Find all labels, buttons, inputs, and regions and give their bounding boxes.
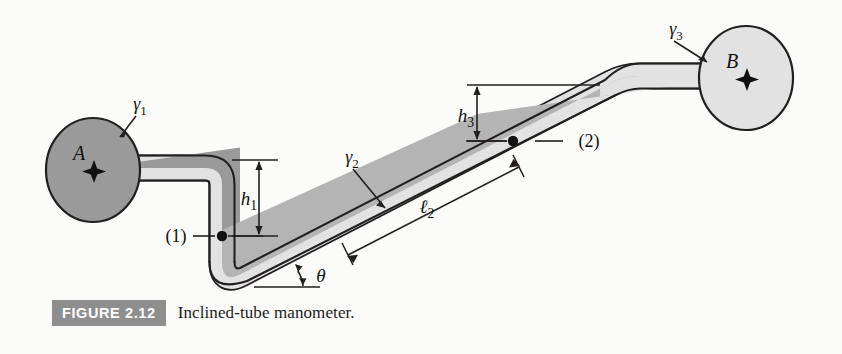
theta-label: θ (316, 265, 325, 286)
reservoir-a: A (46, 118, 140, 222)
figure-caption: FIGURE 2.12 Inclined-tube manometer. (52, 300, 355, 326)
reservoir-a-label: A (71, 142, 86, 164)
gamma1-annotation: γ1 (120, 94, 147, 138)
point-2-marker-dot (508, 136, 518, 146)
gamma3-annotation: γ3 (669, 19, 707, 62)
h1-label: h1 (241, 188, 258, 213)
figure-page: A B γ1 γ3 γ2 (0, 0, 842, 354)
point-1-marker-dot (217, 231, 227, 241)
h1-arrowhead-up (255, 161, 262, 170)
h3-arrowhead-up (473, 86, 480, 95)
gamma1-label: γ1 (133, 94, 147, 118)
reservoir-b: B (699, 26, 793, 130)
reservoir-b-label: B (726, 50, 738, 72)
l2-arrowhead-lower (347, 255, 358, 263)
gamma2-label: γ2 (345, 147, 359, 171)
figure-number-tag: FIGURE 2.12 (52, 300, 166, 326)
point-1-label: (1) (166, 226, 187, 247)
gamma3-label: γ3 (669, 19, 683, 43)
figure-caption-text: Inclined-tube manometer. (178, 303, 355, 323)
point-2-label: (2) (579, 131, 600, 152)
theta-arrowhead-bottom (299, 278, 307, 285)
theta-arrowhead-top (295, 264, 303, 272)
